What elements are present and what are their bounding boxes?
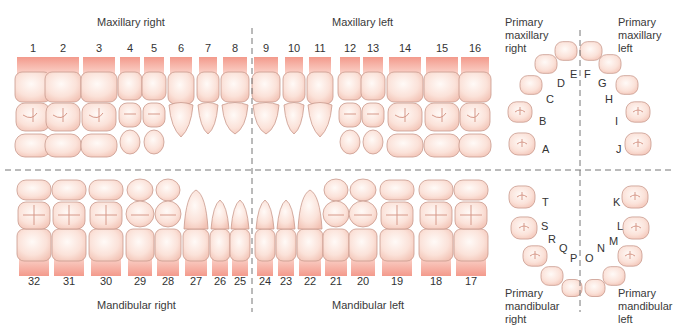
tooth-18: [419, 180, 453, 276]
tooth-29: [126, 179, 154, 276]
primary-tooth-R: [523, 246, 547, 266]
tooth-number: 27: [184, 275, 208, 287]
primary-tooth-label: M: [609, 235, 618, 247]
tooth-number: 7: [196, 42, 220, 54]
primary-tooth-label: P: [570, 252, 577, 264]
tooth-28: [155, 179, 181, 276]
primary-tooth-label: A: [542, 143, 549, 155]
tooth-number: 5: [142, 42, 166, 54]
primary-tooth-label: J: [616, 143, 622, 155]
tooth-4: [118, 57, 142, 154]
primary-tooth-label: E: [570, 68, 577, 80]
tooth-number: 2: [51, 42, 75, 54]
tooth-number: 10: [282, 42, 306, 54]
tooth-6: [168, 57, 194, 137]
tooth-30: [89, 180, 123, 276]
tooth-24: [255, 200, 275, 276]
tooth-number: 12: [338, 42, 362, 54]
primary-tooth-H: [616, 76, 638, 95]
primary-tooth-C: [520, 76, 542, 95]
primary-tooth-K: [622, 186, 648, 208]
primary-tooth-label: R: [548, 233, 556, 245]
tooth-number: 29: [128, 275, 152, 287]
tooth-31: [52, 180, 86, 276]
tooth-number: 22: [298, 275, 322, 287]
primary-tooth-B: [508, 102, 532, 122]
tooth-number: 11: [308, 42, 332, 54]
primary-tooth-D: [535, 55, 557, 74]
primary-tooth-I: [626, 102, 650, 122]
tooth-number: 31: [57, 275, 81, 287]
primary-tooth-T: [509, 186, 535, 208]
primary-tooth-label: O: [585, 252, 594, 264]
tooth-number: 14: [393, 42, 417, 54]
primary-teeth: [508, 42, 651, 297]
tooth-number: 6: [169, 42, 193, 54]
tooth-number: 19: [385, 275, 409, 287]
label-primary-mandibular-right: Primary mandibular right: [505, 287, 559, 326]
label-primary-mandibular-left: Primary mandibular left: [618, 287, 672, 326]
tooth-5: [142, 57, 166, 154]
tooth-number: 1: [21, 42, 45, 54]
tooth-27: [183, 190, 209, 276]
tooth-22: [297, 190, 323, 276]
tooth-number: 15: [430, 42, 454, 54]
tooth-3: [81, 57, 117, 157]
tooth-10: [283, 57, 305, 134]
tooth-number: 13: [361, 42, 385, 54]
tooth-11: [307, 57, 333, 137]
tooth-number: 9: [254, 42, 278, 54]
tooth-17: [454, 180, 488, 276]
primary-tooth-label: S: [541, 220, 548, 232]
tooth-26: [210, 200, 230, 276]
tooth-number: 23: [274, 275, 298, 287]
primary-tooth-label: Q: [559, 242, 568, 254]
tooth-21: [323, 179, 349, 276]
tooth-number: 21: [324, 275, 348, 287]
primary-tooth-label: B: [539, 115, 546, 127]
primary-tooth-P: [562, 280, 582, 297]
primary-tooth-label: K: [613, 196, 620, 208]
tooth-number: 30: [94, 275, 118, 287]
primary-tooth-label: D: [557, 77, 565, 89]
primary-tooth-F: [580, 42, 602, 61]
tooth-15: [424, 57, 460, 157]
tooth-25: [230, 200, 250, 276]
primary-tooth-N: [603, 267, 625, 286]
tooth-number: 25: [228, 275, 252, 287]
tooth-number: 20: [351, 275, 375, 287]
tooth-8: [221, 57, 249, 134]
tooth-32: [17, 180, 51, 276]
tooth-7: [197, 57, 219, 134]
maxillary-teeth: [15, 57, 491, 157]
tooth-number: 18: [424, 275, 448, 287]
primary-tooth-label: F: [584, 68, 591, 80]
primary-tooth-L: [623, 217, 649, 239]
primary-tooth-label: G: [598, 77, 607, 89]
tooth-number: 32: [22, 275, 46, 287]
primary-tooth-M: [618, 246, 642, 266]
tooth-number: 3: [87, 42, 111, 54]
primary-tooth-label: L: [617, 220, 623, 232]
primary-tooth-O: [585, 280, 605, 297]
primary-tooth-S: [511, 217, 537, 239]
primary-tooth-label: C: [546, 93, 554, 105]
tooth-number: 28: [156, 275, 180, 287]
primary-tooth-E: [555, 42, 577, 61]
tooth-23: [276, 200, 296, 276]
primary-tooth-J: [625, 133, 651, 155]
tooth-19: [380, 180, 414, 276]
label-maxillary-left: Maxillary left: [332, 16, 393, 28]
tooth-9: [252, 57, 280, 134]
tooth-20: [349, 179, 377, 276]
primary-tooth-A: [509, 133, 535, 155]
label-primary-maxillary-left: Primary maxillary left: [618, 16, 661, 55]
primary-tooth-label: T: [542, 196, 549, 208]
primary-tooth-label: H: [605, 93, 613, 105]
tooth-12: [338, 57, 362, 154]
label-maxillary-right: Maxillary right: [97, 16, 165, 28]
label-mandibular-left: Mandibular left: [332, 299, 404, 311]
tooth-16: [459, 57, 491, 157]
tooth-number: 17: [459, 275, 483, 287]
tooth-number: 16: [463, 42, 487, 54]
